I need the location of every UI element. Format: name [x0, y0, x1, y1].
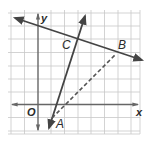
origin-label: O — [27, 107, 36, 118]
y-axis-label: y — [41, 13, 47, 24]
point-c-label: C — [62, 39, 71, 51]
line-ac — [49, 16, 85, 128]
coordinate-plane-figure: y x O C B A — [0, 0, 150, 143]
diagram-canvas — [0, 0, 150, 143]
point-a-label: A — [56, 118, 64, 130]
x-axis-label: x — [136, 107, 142, 118]
point-b-label: B — [118, 39, 126, 51]
